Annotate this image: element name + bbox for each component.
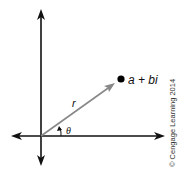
angle-label: θ — [66, 125, 71, 136]
angle-arrow-icon — [57, 126, 62, 131]
complex-plane-diagram: a + bi r θ © Cengage Learning 2014 — [0, 0, 179, 178]
vertical-axis — [37, 9, 45, 166]
horizontal-axis — [11, 132, 165, 140]
copyright-text: © Cengage Learning 2014 — [168, 79, 177, 167]
radius-vector — [41, 83, 115, 136]
radius-label: r — [72, 97, 77, 109]
point-label: a + bi — [128, 73, 158, 87]
point-marker — [117, 75, 124, 82]
